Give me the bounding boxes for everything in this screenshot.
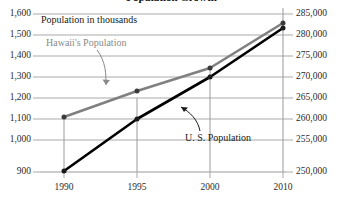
y-right-tick-285000: 285,000	[296, 9, 327, 19]
hawaii-series-label: Hawaii's Population	[46, 38, 126, 48]
y-left-tick-1000: 1,000	[0, 135, 31, 145]
y-right-tick-255000: 255,000	[296, 135, 327, 145]
y-right-tick-270000: 270,000	[296, 72, 327, 82]
us-series-label: U. S. Population	[185, 133, 251, 143]
y-right-tick-280000: 280,000	[296, 30, 327, 40]
y-right-tick-260000: 260,000	[296, 114, 327, 124]
units-note-label: Population in thousands	[41, 15, 137, 25]
hawaii-callout-arrow	[97, 50, 110, 85]
x-tick-2010: 2010	[259, 183, 307, 193]
y-left-tick-1400: 1,400	[0, 51, 31, 61]
x-tick-1995: 1995	[113, 183, 161, 193]
y-left-tick-1600: 1,600	[0, 9, 31, 19]
y-left-tick-1500: 1,500	[0, 30, 31, 40]
x-tick-1990: 1990	[40, 183, 88, 193]
y-left-tick-1100: 1,100	[0, 114, 31, 124]
y-right-tick-275000: 275,000	[296, 51, 327, 61]
population-growth-chart: Population Growth	[0, 0, 343, 204]
y-left-tick-900: 900	[0, 167, 31, 177]
x-tick-2000: 2000	[186, 183, 234, 193]
y-right-tick-250000: 250,000	[296, 167, 327, 177]
y-left-tick-1200: 1,200	[0, 93, 31, 103]
y-right-tick-265000: 265,000	[296, 93, 327, 103]
y-left-tick-1300: 1,300	[0, 72, 31, 82]
chart-canvas	[0, 0, 343, 204]
